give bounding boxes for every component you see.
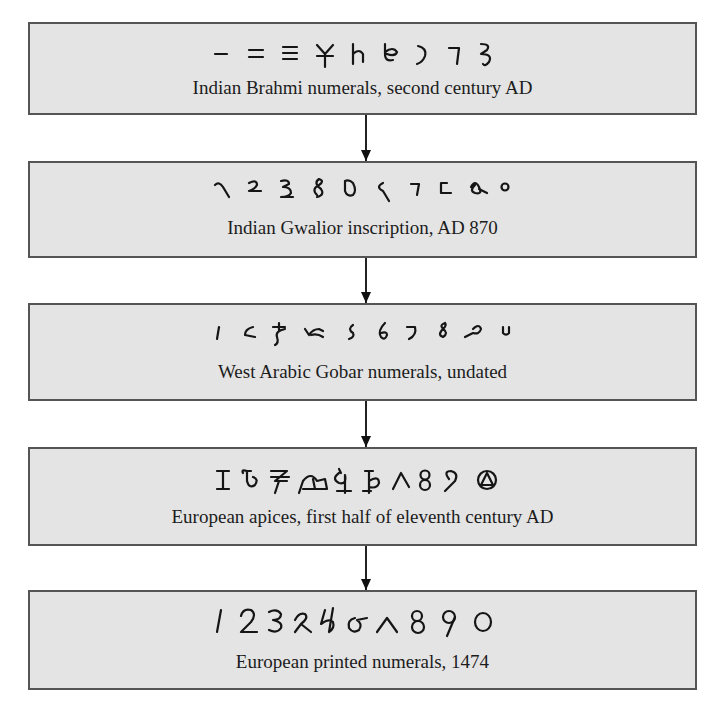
caption-gwalior: Indian Gwalior inscription, AD 870 [30,218,695,237]
numerals-gobar [30,317,695,351]
caption-gobar: West Arabic Gobar numerals, undated [30,362,695,381]
caption-printed: European printed numerals, 1474 [30,652,695,671]
stage-box-brahmi: Indian Brahmi numerals, second century A… [28,22,697,115]
numerals-brahmi [30,40,695,70]
arrow-gobar-to-apices [365,401,367,447]
arrow-brahmi-to-gwalior [365,115,367,161]
printed-numerals-glyphs-icon [213,604,513,640]
gwalior-numerals-glyphs-icon [213,175,513,207]
numerals-gwalior [30,175,695,207]
stage-box-gwalior: Indian Gwalior inscription, AD 870 [28,161,697,258]
arrow-apices-to-printed [365,546,367,590]
brahmi-numerals-glyphs-icon [213,40,513,70]
caption-brahmi: Indian Brahmi numerals, second century A… [30,78,695,97]
numerals-apices [30,463,695,499]
caption-apices: European apices, first half of eleventh … [30,507,695,526]
stage-box-printed: European printed numerals, 1474 [28,590,697,690]
numerals-printed [30,604,695,640]
apices-numerals-glyphs-icon [213,463,513,499]
gobar-numerals-glyphs-icon [213,317,513,351]
stage-box-apices: European apices, first half of eleventh … [28,447,697,546]
arrow-gwalior-to-gobar [365,258,367,303]
stage-box-gobar: West Arabic Gobar numerals, undated [28,303,697,401]
